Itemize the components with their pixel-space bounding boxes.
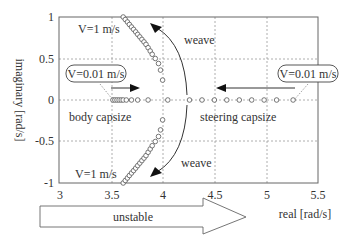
body-capsize-label: body capsize	[69, 110, 131, 124]
data-point	[200, 98, 205, 103]
data-point	[225, 98, 230, 103]
data-point	[262, 98, 267, 103]
data-point	[160, 78, 165, 83]
unstable-label: unstable	[113, 210, 153, 224]
svg-text:3: 3	[57, 188, 63, 202]
weave-top-label: weave	[184, 33, 215, 47]
data-point	[160, 118, 165, 123]
data-point	[212, 98, 217, 103]
x-axis-label: real [rad/s]	[279, 207, 331, 221]
v1-top-label: V=1 m/s	[78, 22, 120, 36]
svg-text:4.5: 4.5	[208, 188, 223, 202]
svg-text:0.5: 0.5	[39, 52, 54, 66]
svg-text:4: 4	[160, 188, 166, 202]
data-point	[156, 134, 161, 139]
svg-text:5: 5	[264, 188, 270, 202]
svg-text:-0.5: -0.5	[35, 134, 54, 148]
data-point	[156, 61, 161, 66]
data-point	[150, 143, 155, 148]
steering-capsize-label: steering capsize	[200, 110, 276, 124]
arrowhead-up-icon	[150, 23, 162, 33]
root-locus-chart: 1 0.5 0 -0.5 -1 imaginary [rad/s] 3 3.5 …	[0, 0, 353, 242]
data-point	[129, 98, 134, 103]
data-point	[158, 128, 163, 133]
arrowhead-down-icon	[150, 167, 162, 177]
svg-text:1: 1	[48, 10, 54, 24]
data-point	[124, 98, 129, 103]
data-point	[291, 98, 296, 103]
svg-text:3.5: 3.5	[105, 188, 120, 202]
arrow-right-icon	[130, 84, 140, 92]
v001-right-label: V=0.01 m/s	[280, 67, 337, 81]
data-point	[150, 52, 155, 57]
svg-text:-1: -1	[44, 176, 54, 190]
data-point	[274, 98, 279, 103]
data-point	[153, 139, 158, 144]
svg-text:0: 0	[48, 93, 54, 107]
y-axis: 1 0.5 0 -0.5 -1 imaginary [rad/s]	[13, 10, 54, 190]
data-point	[135, 98, 140, 103]
data-point	[237, 98, 242, 103]
svg-text:5.5: 5.5	[311, 188, 326, 202]
v001-left-label: V=0.01 m/s	[68, 67, 125, 81]
data-point	[153, 56, 158, 61]
y-axis-label: imaginary [rad/s]	[13, 59, 27, 142]
data-point	[187, 98, 192, 103]
weave-bottom-label: weave	[181, 156, 212, 170]
data-point	[166, 98, 171, 103]
data-point	[146, 98, 151, 103]
v1-bottom-label: V=1 m/s	[75, 167, 117, 181]
data-point	[158, 68, 163, 73]
arrow-left-icon	[216, 84, 226, 92]
data-point	[249, 98, 254, 103]
